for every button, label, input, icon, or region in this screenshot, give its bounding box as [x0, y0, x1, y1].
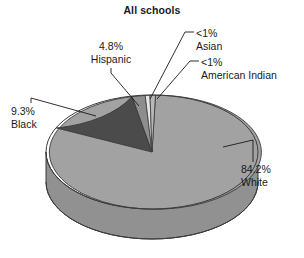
label-american-indian-percent: <1% [201, 56, 277, 69]
label-white-percent: 84.2% [241, 163, 271, 176]
label-black: 9.3% Black [11, 105, 37, 130]
label-black-percent: 9.3% [11, 105, 37, 118]
label-hispanic: 4.8% Hispanic [74, 40, 148, 65]
label-white: 84.2% White [241, 163, 271, 188]
label-white-name: White [241, 176, 271, 189]
leader-line-american-indian [157, 61, 199, 99]
label-asian: <1% Asian [196, 27, 222, 52]
pie-chart-graphic [0, 0, 304, 258]
label-american-indian: <1% American Indian [201, 56, 277, 81]
label-asian-name: Asian [196, 40, 222, 53]
label-hispanic-percent: 4.8% [74, 40, 148, 53]
pie-chart-figure: All schools [0, 0, 304, 258]
label-black-name: Black [11, 118, 37, 131]
label-asian-percent: <1% [196, 27, 222, 40]
pie-3d-body [46, 95, 261, 239]
label-american-indian-name: American Indian [201, 69, 277, 82]
leader-line-asian [150, 32, 194, 99]
label-hispanic-name: Hispanic [74, 53, 148, 66]
